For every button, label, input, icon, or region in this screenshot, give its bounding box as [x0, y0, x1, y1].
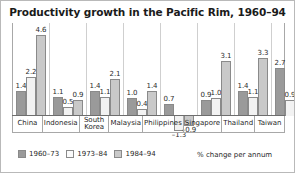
- bar-slot: 0.4: [137, 23, 147, 116]
- bar-value-label: 0.9: [284, 91, 295, 100]
- bar-slot: –0.9: [184, 23, 194, 116]
- bar-slot: 1.4: [90, 23, 100, 116]
- bar[interactable]: 3.3: [258, 58, 268, 116]
- bar-slot: 0.7: [164, 23, 174, 116]
- bar-group-bars: 0.91.03.1: [198, 23, 234, 116]
- bar-group: 0.91.03.1: [198, 23, 235, 116]
- chart-legend: 1960–731973–841984–94: [18, 150, 156, 158]
- legend-item[interactable]: 1984–94: [114, 150, 155, 158]
- bar-group: 1.42.24.6: [13, 23, 50, 116]
- bar-value-label: 1.4: [146, 82, 157, 91]
- bar[interactable]: 1.0: [211, 98, 221, 116]
- bar-value-label: 0.9: [72, 91, 83, 100]
- category-label-singapore: Singapore: [184, 116, 222, 132]
- category-label-south-korea: South Korea: [80, 116, 110, 132]
- bar-value-label: 0.4: [136, 100, 147, 109]
- category-label-philippines: Philippines: [143, 116, 184, 132]
- bar-slot: 3.1: [221, 23, 231, 116]
- bar-value-label: 1.1: [247, 88, 258, 97]
- category-label-taiwan: Taiwan: [255, 116, 284, 132]
- bar-value-label: 4.6: [35, 26, 46, 35]
- bar-group: 1.41.13.3: [235, 23, 272, 116]
- bar-group: 1.10.50.9: [50, 23, 87, 116]
- bar-slot: 1.1: [248, 23, 258, 116]
- bar-value-label: 1.1: [99, 88, 110, 97]
- legend-label: 1973–84: [77, 150, 107, 158]
- bar[interactable]: 3.1: [221, 61, 231, 116]
- bar-slot: 0.9: [201, 23, 211, 116]
- bar[interactable]: 1.4: [16, 91, 26, 116]
- bar-value-label: 2.1: [109, 70, 120, 79]
- bar-value-label: 3.3: [257, 49, 268, 58]
- bar-group-bars: 1.10.50.9: [50, 23, 86, 116]
- bar-value-label: 1.0: [126, 89, 137, 98]
- bar[interactable]: 0.9: [201, 100, 211, 116]
- bar-value-label: 2.8: [294, 58, 295, 67]
- legend-swatch-icon: [66, 150, 74, 158]
- axis-note: % change per annum: [197, 151, 272, 159]
- bar-group-bars: 2.70.92.8: [272, 23, 295, 116]
- bar-slot: 2.1: [110, 23, 120, 116]
- bar-slot: –1.3: [174, 23, 184, 116]
- bar[interactable]: 2.1: [110, 79, 120, 116]
- bar[interactable]: 4.6: [36, 35, 46, 116]
- legend-item[interactable]: 1973–84: [66, 150, 107, 158]
- bar-group-bars: 1.42.24.6: [13, 23, 49, 116]
- bar-slot: 0.9: [285, 23, 295, 116]
- bar-group-bars: 1.00.41.4: [124, 23, 160, 116]
- bar-value-label: 1.0: [210, 89, 221, 98]
- legend-swatch-icon: [18, 150, 26, 158]
- bar-slot: 0.5: [63, 23, 73, 116]
- bar-group: 1.00.41.4: [124, 23, 161, 116]
- bar-group: 1.41.12.1: [87, 23, 124, 116]
- bar-group: 2.70.92.8: [272, 23, 295, 116]
- chart-figure: Productivity growth in the Pacific Rim, …: [0, 0, 295, 173]
- bar-group-bars: 1.41.12.1: [87, 23, 123, 116]
- category-axis: ChinaIndonesiaSouth KoreaMalaysiaPhilipp…: [12, 116, 285, 133]
- bar-value-label: 0.7: [163, 95, 174, 104]
- bar-group-bars: 0.7–1.3–0.9: [161, 23, 197, 116]
- bar[interactable]: 1.4: [147, 91, 157, 116]
- bar[interactable]: 2.2: [26, 77, 36, 116]
- legend-label: 1960–73: [29, 150, 59, 158]
- bar-slot: 3.3: [258, 23, 268, 116]
- bar-group: 0.7–1.3–0.9: [161, 23, 198, 116]
- bar-groups: 1.42.24.61.10.50.91.41.12.11.00.41.40.7–…: [13, 23, 284, 116]
- bar-value-label: 2.7: [274, 59, 285, 68]
- bar-slot: 1.0: [211, 23, 221, 116]
- bar[interactable]: 1.1: [100, 97, 110, 116]
- bar-value-label: 2.2: [25, 68, 36, 77]
- bar-slot: 2.2: [26, 23, 36, 116]
- category-label-thailand: Thailand: [222, 116, 255, 132]
- bar-value-label: 3.1: [220, 52, 231, 61]
- bar-value-label: 1.1: [52, 88, 63, 97]
- bar-slot: 1.4: [147, 23, 157, 116]
- legend-item[interactable]: 1960–73: [18, 150, 59, 158]
- bar-group-bars: 1.41.13.3: [235, 23, 271, 116]
- bar-slot: 0.9: [73, 23, 83, 116]
- category-label-indonesia: Indonesia: [43, 116, 80, 132]
- category-label-malaysia: Malaysia: [109, 116, 143, 132]
- bar-slot: 1.4: [238, 23, 248, 116]
- legend-swatch-icon: [114, 150, 122, 158]
- bar-slot: 4.6: [36, 23, 46, 116]
- plot-area: 1.42.24.61.10.50.91.41.12.11.00.41.40.7–…: [12, 23, 285, 116]
- chart-title: Productivity growth in the Pacific Rim, …: [1, 6, 294, 18]
- bar-slot: 2.7: [275, 23, 285, 116]
- bar-value-label: 1.4: [15, 82, 26, 91]
- legend-label: 1984–94: [125, 150, 155, 158]
- bar[interactable]: 1.1: [248, 97, 258, 116]
- bar[interactable]: 0.9: [73, 100, 83, 116]
- bar[interactable]: 0.9: [285, 100, 295, 116]
- category-label-china: China: [13, 116, 43, 132]
